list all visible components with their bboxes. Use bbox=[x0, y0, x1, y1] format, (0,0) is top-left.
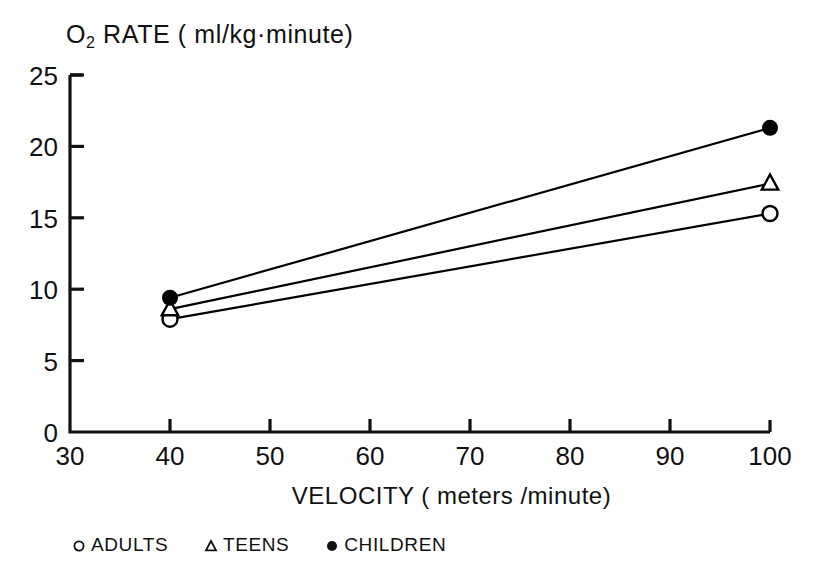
y-tick-label-10: 10 bbox=[29, 275, 58, 305]
legend-label-teens: TEENS bbox=[223, 534, 289, 556]
x-axis-tick-labels: 30405060708090100 bbox=[56, 441, 792, 471]
y-tick-label-20: 20 bbox=[29, 132, 58, 162]
x-tick-label-80: 80 bbox=[556, 441, 585, 471]
series-lines-group bbox=[170, 128, 770, 319]
marker-teens-100 bbox=[762, 175, 779, 190]
x-axis-label: VELOCITY ( meters /minute) bbox=[0, 482, 819, 510]
marker-children-100 bbox=[762, 120, 778, 136]
chart-figure: O2 RATE ( ml/kg·minute) 0510152025 30405… bbox=[0, 0, 819, 585]
series-line-children bbox=[170, 128, 770, 298]
x-tick-label-60: 60 bbox=[356, 441, 385, 471]
y-tick-label-15: 15 bbox=[29, 204, 58, 234]
axis-lines bbox=[70, 75, 770, 432]
series-line-teens bbox=[170, 184, 770, 310]
legend-item-children: CHILDREN bbox=[325, 534, 446, 556]
open-triangle-marker-icon bbox=[204, 538, 218, 552]
x-tick-label-70: 70 bbox=[456, 441, 485, 471]
series-line-adults bbox=[170, 214, 770, 320]
y-tick-label-25: 25 bbox=[29, 61, 58, 91]
x-tick-label-100: 100 bbox=[748, 441, 791, 471]
legend-item-adults: ADULTS bbox=[72, 534, 168, 556]
axes-group bbox=[70, 75, 770, 432]
filled-circle-marker-icon bbox=[325, 538, 339, 552]
y-axis-ticks bbox=[70, 75, 84, 361]
marker-children-40 bbox=[162, 290, 178, 306]
chart-legend: ADULTS TEENS CHILDREN bbox=[72, 534, 476, 556]
x-tick-label-30: 30 bbox=[56, 441, 85, 471]
x-tick-label-40: 40 bbox=[156, 441, 185, 471]
y-axis-tick-labels: 0510152025 bbox=[29, 61, 58, 448]
x-tick-label-90: 90 bbox=[656, 441, 685, 471]
x-axis-label-text: VELOCITY ( meters /minute) bbox=[292, 482, 611, 509]
legend-item-teens: TEENS bbox=[204, 534, 289, 556]
legend-label-children: CHILDREN bbox=[344, 534, 446, 556]
open-circle-marker-icon bbox=[72, 538, 86, 552]
legend-label-adults: ADULTS bbox=[91, 534, 168, 556]
x-axis-ticks bbox=[170, 419, 670, 432]
y-tick-label-5: 5 bbox=[44, 347, 58, 377]
marker-adults-100 bbox=[763, 206, 778, 221]
x-tick-label-50: 50 bbox=[256, 441, 285, 471]
